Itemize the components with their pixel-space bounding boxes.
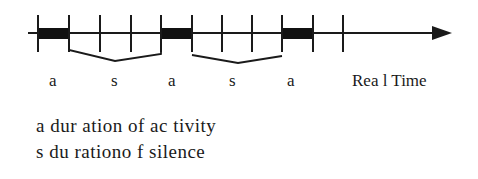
time-axis-arrowhead-icon (432, 26, 452, 40)
activity-block (38, 28, 69, 39)
segment-label-activity: a (49, 72, 57, 89)
activity-block (282, 28, 313, 39)
segment-label-activity: a (168, 72, 176, 89)
segment-label-silence: s (229, 72, 236, 89)
axis-label-real-time: Rea l Time (352, 72, 427, 89)
legend-activity: a dur ation of ac tivity (36, 116, 216, 135)
segment-label-activity: a (287, 72, 295, 89)
silence-bracket (69, 42, 161, 61)
silence-bracket (192, 55, 282, 63)
activity-block (161, 28, 192, 39)
segment-label-silence: s (111, 72, 118, 89)
legend-silence: s du rationo f silence (36, 142, 205, 161)
